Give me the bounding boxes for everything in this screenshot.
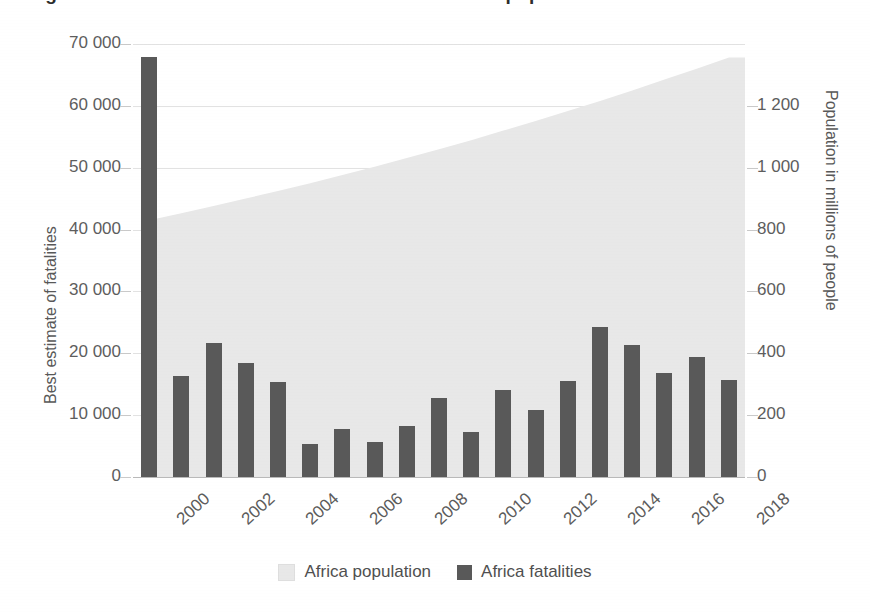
bar[interactable] (624, 345, 640, 477)
y-axis-left-tick-label: 60 000 (69, 95, 121, 115)
bar[interactable] (689, 357, 705, 477)
y-axis-left-tick-mark (120, 106, 131, 107)
y-axis-right-tick-label: 0 (757, 466, 766, 486)
gridline (133, 477, 745, 478)
figure-title-text: Figure 1. Deaths from conflict in Africa… (28, 0, 604, 5)
bar[interactable] (721, 380, 737, 477)
y-axis-left-title: Best estimate of fatalities (42, 226, 60, 404)
bar[interactable] (367, 442, 383, 477)
bar[interactable] (495, 390, 511, 477)
y-axis-left-tick-label: 30 000 (69, 280, 121, 300)
y-axis-right-tick-label: 1 000 (757, 157, 800, 177)
bar[interactable] (334, 429, 350, 477)
y-axis-left-tick-label: 10 000 (69, 404, 121, 424)
plot-area (133, 44, 745, 477)
y-axis-right-tick-mark (747, 106, 758, 107)
legend-label-population: Africa population (304, 562, 431, 582)
y-axis-right-tick-mark (747, 415, 758, 416)
y-axis-left-tick-label: 20 000 (69, 342, 121, 362)
x-axis-tick-label[interactable]: 2010 (495, 489, 536, 529)
y-axis-right-tick-label: 400 (757, 342, 785, 362)
y-axis-right-tick-mark (747, 291, 758, 292)
x-axis-tick-label[interactable]: 2016 (688, 489, 729, 529)
bar[interactable] (656, 373, 672, 477)
legend-item-population[interactable]: Africa population (278, 562, 431, 582)
bar[interactable] (399, 426, 415, 477)
bar[interactable] (592, 327, 608, 477)
x-axis-tick-label[interactable]: 2006 (366, 489, 407, 529)
bar[interactable] (238, 363, 254, 477)
y-axis-left-tick-label: 50 000 (69, 157, 121, 177)
fatalities-bar-series (133, 44, 745, 477)
x-axis-tick-label[interactable]: 2018 (753, 489, 794, 529)
y-axis-left-tick-mark (120, 291, 131, 292)
figure-title-clipped: Figure 1. Deaths from conflict in Africa… (0, 0, 870, 9)
y-axis-right-tick-mark (747, 230, 758, 231)
bar[interactable] (560, 381, 576, 477)
square-swatch-icon (278, 564, 295, 581)
y-axis-left-tick-mark (120, 168, 131, 169)
y-axis-left-tick-mark (120, 230, 131, 231)
y-axis-left-tick-label: 40 000 (69, 219, 121, 239)
square-swatch-icon (457, 565, 472, 580)
y-axis-left-tick-mark (120, 44, 131, 45)
y-axis-right-tick-label: 1 200 (757, 95, 800, 115)
legend-label-fatalities: Africa fatalities (481, 562, 592, 582)
bar[interactable] (173, 376, 189, 477)
y-axis-left-tick-label: 0 (112, 466, 121, 486)
y-axis-right-tick-label: 800 (757, 219, 785, 239)
y-axis-left-tick-mark (120, 477, 131, 478)
y-axis-right-tick-mark (747, 353, 758, 354)
y-axis-left-tick-mark (120, 415, 131, 416)
bar[interactable] (528, 410, 544, 477)
legend-item-fatalities[interactable]: Africa fatalities (457, 562, 592, 582)
bar[interactable] (431, 398, 447, 477)
bar[interactable] (141, 57, 157, 477)
y-axis-right-title: Population in millions of people (822, 90, 840, 311)
y-axis-right-tick-mark (747, 168, 758, 169)
x-axis-tick-label[interactable]: 2014 (624, 489, 665, 529)
chart-legend: Africa population Africa fatalities (0, 562, 870, 582)
bar[interactable] (270, 382, 286, 477)
x-axis-tick-label[interactable]: 2000 (173, 489, 214, 529)
y-axis-right-tick-mark (747, 477, 758, 478)
bar[interactable] (463, 432, 479, 477)
y-axis-right-tick-label: 200 (757, 404, 785, 424)
chart-page: Figure 1. Deaths from conflict in Africa… (0, 0, 870, 612)
y-axis-left-tick-label: 70 000 (69, 33, 121, 53)
x-axis-tick-label[interactable]: 2002 (237, 489, 278, 529)
y-axis-right-tick-label: 600 (757, 280, 785, 300)
x-axis-tick-label[interactable]: 2012 (559, 489, 600, 529)
x-axis-tick-label[interactable]: 2004 (302, 489, 343, 529)
bar[interactable] (206, 343, 222, 477)
x-axis-tick-label[interactable]: 2008 (430, 489, 471, 529)
y-axis-left-tick-mark (120, 353, 131, 354)
bar[interactable] (302, 444, 318, 477)
